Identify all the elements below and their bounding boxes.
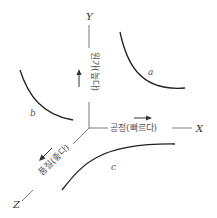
x-axis-label: 공정(빠르다)	[110, 123, 157, 133]
arrow-up-icon	[77, 69, 82, 87]
z-axis: 품질(좋다) Z	[12, 128, 89, 210]
curve-b-label: b	[30, 108, 36, 118]
y-axis-label: 원가(높다)	[90, 52, 100, 91]
curve-c-label: c	[111, 162, 116, 172]
curve-a: a	[120, 32, 185, 88]
z-axis-letter: Z	[12, 199, 21, 210]
three-axis-diagram: Y 원가(높다) 공정(빠르다) X 품질(좋다) Z	[0, 0, 217, 218]
arrow-right-icon	[134, 116, 152, 121]
x-axis: 공정(빠르다) X	[89, 116, 204, 135]
curve-a-label: a	[148, 67, 153, 77]
curve-c: c	[62, 144, 175, 190]
x-axis-letter: X	[195, 123, 204, 134]
y-axis: Y 원가(높다)	[77, 11, 101, 128]
curve-b: b	[20, 70, 73, 120]
y-axis-letter: Y	[86, 11, 94, 22]
